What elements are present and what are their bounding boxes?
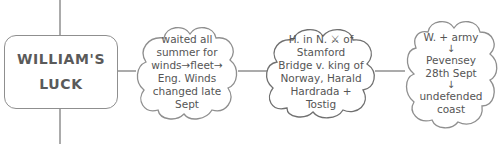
arrow-down-icon: ↓ [447, 44, 455, 54]
cloud-3-line: W. + army [424, 31, 479, 44]
cloud-stamford-bridge: H. in N. ⚔ of Stamford Bridge v. king of… [263, 24, 379, 120]
cloud-2-line: Bridge v. king of [278, 59, 363, 72]
central-topic-box: WILLIAM'S LUCK [4, 35, 118, 109]
cloud-2-line: Hardrada + [290, 85, 351, 98]
cloud-pevensey-landing: W. + army ↓ Pevensey 28th Sept ↓ undefen… [402, 14, 500, 132]
title-line-1: WILLIAM'S [17, 47, 105, 72]
cloud-2-line: Stamford [297, 46, 345, 59]
cloud-1-line: changed late [153, 85, 222, 98]
cloud-1-line: waited all [162, 33, 213, 46]
cloud-3-line: 28th Sept [425, 67, 476, 80]
cloud-1-line: Eng. Winds [158, 72, 217, 85]
arrow-down-icon: ↓ [447, 80, 455, 90]
cloud-1-line: Sept [175, 98, 199, 111]
cloud-1-line: winds→fleet→ [151, 59, 223, 72]
cloud-3-line: undefended [419, 90, 482, 103]
cloud-2-line: H. in N. ⚔ of [289, 33, 354, 46]
title-line-2: LUCK [39, 72, 82, 97]
cloud-3-line: coast [437, 103, 465, 116]
cloud-2-line: Norway, Harald [280, 72, 361, 85]
cloud-waiting-for-winds: waited all summer for winds→fleet→ Eng. … [134, 22, 240, 122]
cloud-3-line: Pevensey [426, 54, 476, 67]
cloud-2-line: Tostig [306, 98, 336, 111]
cloud-1-line: summer for [156, 46, 217, 59]
